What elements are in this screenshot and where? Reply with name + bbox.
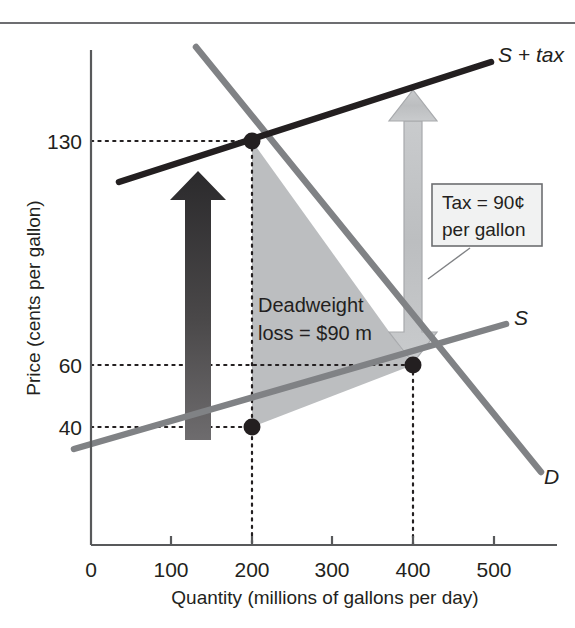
x-axis-title: Quantity (millions of gallons per day) [171,587,478,608]
point-200-130 [244,133,261,150]
y-tick-label-40: 40 [59,416,82,439]
price-rise-arrow [170,171,226,440]
supply-plus-tax-curve [119,62,491,182]
y-tick-label-130: 130 [47,130,82,153]
tax-callout-line1: Tax = 90¢ [442,192,525,213]
deadweight-loss-label-line2: loss = $90 m [258,322,372,344]
x-axis-ticks [171,536,494,545]
demand-curve [196,47,541,472]
supply-plus-tax-label: S + tax [498,43,565,66]
point-200-40 [244,419,261,436]
supply-label: S [514,306,528,329]
x-tick-label-300: 300 [314,558,349,581]
supply-demand-chart: 130 60 40 0 100 200 300 400 500 Quantity… [0,0,575,628]
x-tick-label-200: 200 [234,558,269,581]
x-tick-label-400: 400 [395,558,430,581]
deadweight-loss-label-line1: Deadweight [258,294,364,316]
y-tick-label-60: 60 [59,354,82,377]
x-tick-label-0: 0 [85,558,97,581]
figure-root: 130 60 40 0 100 200 300 400 500 Quantity… [0,0,575,628]
x-tick-label-500: 500 [476,558,511,581]
tax-box-leader-line [428,248,470,279]
y-axis-title: Price (cents per gallon) [23,200,44,395]
tax-wedge-arrow [389,90,437,363]
point-400-60 [405,357,422,374]
x-tick-label-100: 100 [153,558,188,581]
demand-label: D [544,465,559,488]
tax-callout-line2: per gallon [442,219,525,240]
